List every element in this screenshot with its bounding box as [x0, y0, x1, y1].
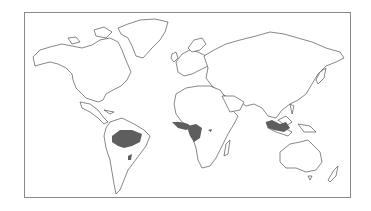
- madagascar: [224, 140, 230, 156]
- cuba: [104, 110, 114, 114]
- new-zealand: [328, 166, 338, 182]
- philippines: [290, 104, 294, 114]
- world-map: [0, 0, 371, 211]
- south-america: [104, 118, 150, 194]
- arctic-islands-2: [68, 37, 80, 44]
- north-america: [33, 38, 131, 102]
- arctic-islands: [94, 27, 112, 38]
- greenland: [118, 19, 168, 58]
- central-america: [80, 102, 108, 124]
- scandinavia: [188, 38, 206, 52]
- australia: [280, 140, 322, 172]
- new-guinea: [298, 124, 316, 132]
- tasmania: [308, 176, 312, 180]
